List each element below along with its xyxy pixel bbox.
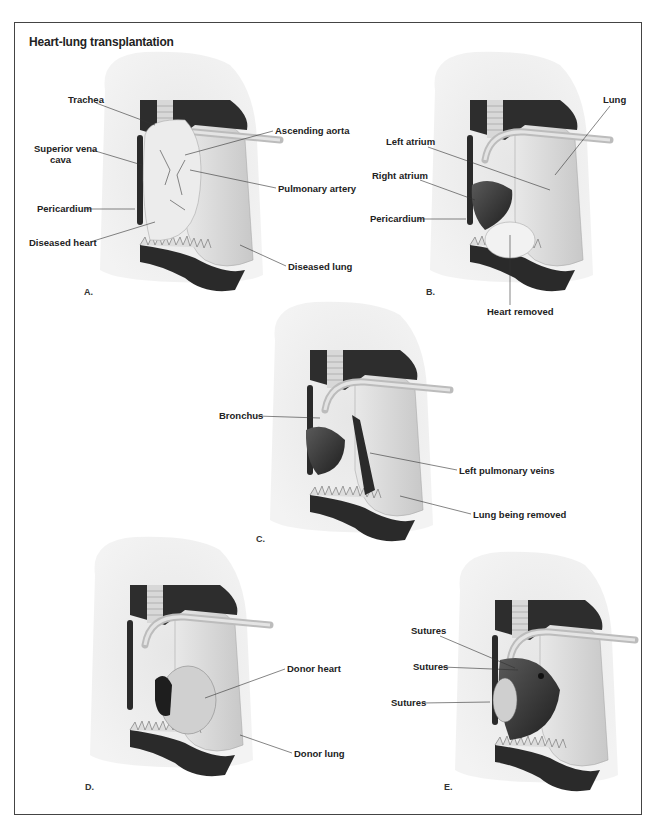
label-pulmonary-artery: Pulmonary artery bbox=[278, 183, 357, 194]
label-pericardium-a: Pericardium bbox=[37, 203, 92, 214]
label-donor-lung: Donor lung bbox=[294, 748, 345, 759]
panel-c: Bronchus Left pulmonary veins Lung being… bbox=[219, 302, 567, 544]
label-left-atrium: Left atrium bbox=[386, 136, 435, 147]
panel-letter-d: D. bbox=[85, 782, 94, 792]
label-left-pulmonary-veins: Left pulmonary veins bbox=[459, 465, 555, 476]
panel-b: Left atrium Right atrium Pericardium Lun… bbox=[370, 52, 626, 317]
label-sutures-2: Sutures bbox=[413, 661, 448, 672]
panel-letter-e: E. bbox=[444, 782, 453, 792]
label-right-atrium: Right atrium bbox=[372, 170, 428, 181]
panel-letter-a: A. bbox=[84, 287, 93, 297]
label-pericardium-b: Pericardium bbox=[370, 213, 425, 224]
label-diseased-lung: Diseased lung bbox=[288, 261, 353, 272]
label-sutures-1: Sutures bbox=[411, 625, 446, 636]
label-lung: Lung bbox=[603, 94, 626, 105]
diagram-canvas: Trachea Superior vena cava Pericardium D… bbox=[0, 0, 661, 832]
label-superior-vena-cava: Superior vena bbox=[34, 143, 98, 154]
panel-d: Donor heart Donor lung D. bbox=[85, 537, 345, 792]
panel-e: Sutures Sutures Sutures E. bbox=[391, 552, 635, 792]
panel-letter-c: C. bbox=[256, 534, 265, 544]
label-sutures-3: Sutures bbox=[391, 697, 426, 708]
panel-letter-b: B. bbox=[426, 287, 435, 297]
label-ascending-aorta: Ascending aorta bbox=[275, 125, 350, 136]
panel-a: Trachea Superior vena cava Pericardium D… bbox=[29, 52, 357, 297]
label-cava: cava bbox=[50, 154, 72, 165]
label-diseased-heart: Diseased heart bbox=[29, 237, 97, 248]
label-lung-being-removed: Lung being removed bbox=[473, 509, 567, 520]
label-donor-heart: Donor heart bbox=[287, 663, 342, 674]
label-heart-removed: Heart removed bbox=[487, 306, 554, 317]
label-trachea: Trachea bbox=[68, 94, 105, 105]
label-bronchus: Bronchus bbox=[219, 410, 263, 421]
